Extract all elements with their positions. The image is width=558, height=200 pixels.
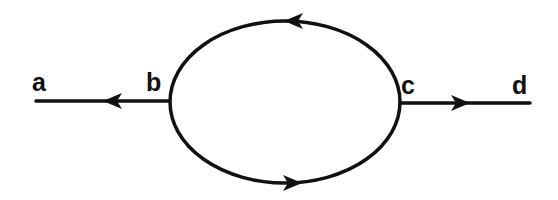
node-label-c: c bbox=[401, 71, 415, 99]
loop-ellipse bbox=[170, 21, 400, 183]
node-label-b: b bbox=[146, 68, 161, 96]
node-label-d: d bbox=[512, 71, 527, 99]
loop-diagram: a b c d bbox=[0, 0, 558, 200]
node-label-a: a bbox=[32, 68, 47, 96]
